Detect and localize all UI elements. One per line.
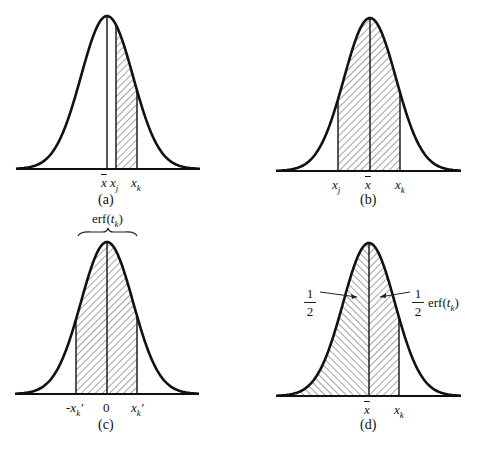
bell-curve-a <box>16 16 200 169</box>
shaded-region-a <box>116 25 137 169</box>
label-zero: 0 <box>103 401 110 414</box>
annotation-erf-tk: erf(tk) <box>428 296 459 313</box>
shaded-region-b <box>338 18 400 171</box>
brace-erf <box>78 228 137 236</box>
label-xk-d: xk <box>394 403 404 420</box>
label-xk-prime: xk′ <box>131 401 144 418</box>
caption-d: (d) <box>360 418 376 432</box>
caption-c: (c) <box>98 418 114 432</box>
panel-d <box>276 243 461 396</box>
label-xk-a: xk <box>131 176 141 193</box>
panel-c <box>15 242 199 394</box>
panel-a <box>16 16 200 169</box>
annotation-half: 12 <box>304 287 316 318</box>
annotation-half-erf-fraction: 12 <box>412 287 424 318</box>
normal-distribution-figure <box>0 0 479 450</box>
label-mean-b: x <box>365 178 371 191</box>
caption-b: (b) <box>360 193 376 207</box>
label-mean-d: x <box>364 403 370 416</box>
label-xk-b: xk <box>395 178 405 195</box>
label-xj-b: xj <box>332 178 340 195</box>
caption-a: (a) <box>98 193 114 207</box>
label-neg-xk-prime: -xk′ <box>66 401 83 418</box>
label-xj-a: xj <box>110 176 118 193</box>
panel-b <box>276 18 461 171</box>
brace-label-erf: erf(tk) <box>92 212 123 229</box>
label-mean-a: x <box>101 176 107 189</box>
shaded-region-d <box>296 243 369 396</box>
